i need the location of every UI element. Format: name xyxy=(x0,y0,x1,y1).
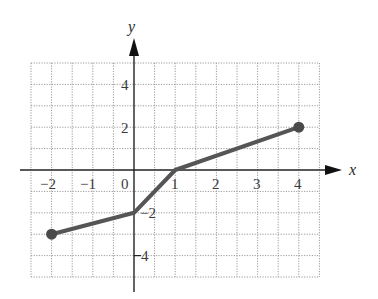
x-tick: 0 xyxy=(121,176,129,192)
closed-endpoint-right xyxy=(293,122,304,133)
x-tick: −1 xyxy=(80,176,96,192)
function-graph: x y −2 −1 0 1 2 3 4 4 2 −2 4 xyxy=(0,0,378,299)
x-tick: 2 xyxy=(212,176,220,192)
y-axis-arrow-icon xyxy=(129,38,139,56)
y-tick: −2 xyxy=(140,205,156,221)
x-axis-arrow-icon xyxy=(325,165,342,175)
y-tick: 4 xyxy=(121,77,129,93)
y-tick: 2 xyxy=(121,120,129,136)
x-tick-labels: −2 −1 0 1 2 3 4 xyxy=(40,176,302,192)
x-tick: 3 xyxy=(253,176,261,192)
x-tick: 1 xyxy=(171,176,179,192)
x-axis-label: x xyxy=(348,161,356,178)
y-tick: 4 xyxy=(141,248,149,264)
axes xyxy=(20,38,342,292)
x-tick: −2 xyxy=(40,176,56,192)
x-tick: 4 xyxy=(294,176,302,192)
y-axis-label: y xyxy=(126,18,136,36)
closed-endpoint-left xyxy=(46,229,57,240)
